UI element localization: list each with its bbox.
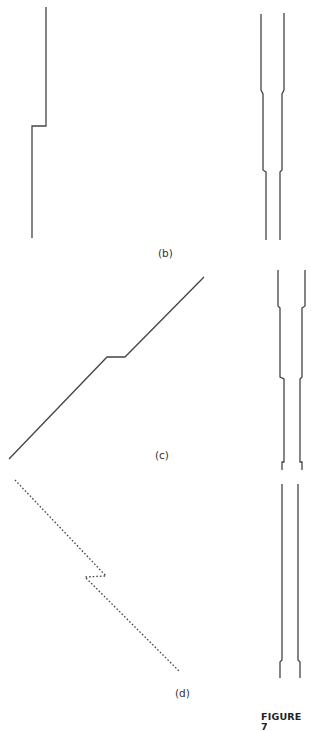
panel-c-parallel-lines — [278, 270, 305, 470]
figure-canvas — [0, 0, 311, 731]
panel-b-parallel-lines — [261, 13, 284, 240]
figure-caption: FIGURE 7 — [261, 712, 311, 731]
panel-b-step-line — [32, 7, 46, 238]
panel-c-diagonal-step-line — [9, 277, 204, 459]
panel-b-label: (b) — [158, 248, 173, 259]
panel-c-label: (c) — [155, 450, 169, 461]
panel-d-parallel-lines — [280, 484, 300, 678]
panel-d-label: (d) — [175, 688, 190, 699]
panel-d-dotted-zigzag-line — [15, 480, 179, 671]
